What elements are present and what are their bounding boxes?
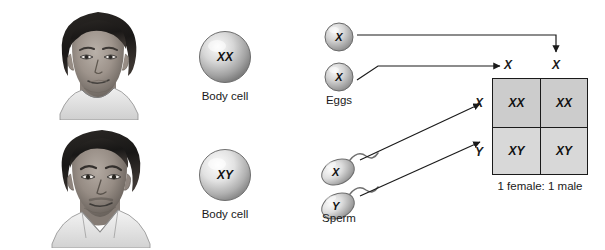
egg-allele-1: X <box>324 31 354 43</box>
egg-cell-2: X <box>324 62 354 92</box>
eggs-caption: Eggs <box>312 94 366 106</box>
punnett-cell-r0c0: XX <box>493 79 540 127</box>
sperm-caption: Sperm <box>308 212 370 224</box>
punnett-col-header-2: X <box>544 58 568 72</box>
arrow-egg1-to-col2 <box>357 35 556 52</box>
sperm-allele-2: Y <box>332 200 339 212</box>
egg-cell-1: X <box>324 22 354 52</box>
punnett-row-header-2: Y <box>472 145 486 159</box>
punnett-cell-r1c1: XY <box>540 127 587 175</box>
punnett-col-header-1: X <box>496 58 520 72</box>
punnett-square: XX XX XY XY <box>492 78 588 175</box>
genotype-label-female: XX <box>198 50 252 64</box>
sperm-allele-1: X <box>332 166 339 178</box>
egg-allele-2: X <box>324 71 354 83</box>
genetics-diagram: XX Body cell XY Body cell <box>0 0 605 250</box>
arrow-egg2-to-col1 <box>357 66 500 80</box>
punnett-cell-r0c1: XX <box>540 79 587 127</box>
female-portrait <box>28 2 168 120</box>
genotype-label-male: XY <box>198 168 252 182</box>
punnett-row-header-1: X <box>472 96 486 110</box>
male-portrait <box>26 120 176 248</box>
body-cell-sphere-male: XY <box>198 148 252 202</box>
punnett-cell-r1c0: XY <box>493 127 540 175</box>
body-cell-sphere-female: XX <box>198 30 252 84</box>
body-cell-caption-female: Body cell <box>188 90 262 102</box>
punnett-ratio-caption: 1 female: 1 male <box>478 180 602 192</box>
body-cell-caption-male: Body cell <box>188 208 262 220</box>
